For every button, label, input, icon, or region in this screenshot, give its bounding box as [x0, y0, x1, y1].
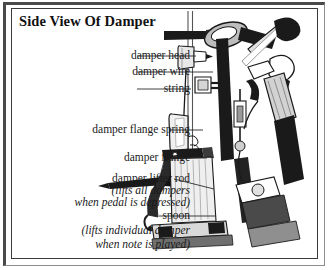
label-string: string: [57, 83, 190, 95]
label-damper-flange: damper flange: [25, 152, 190, 164]
label-spoon: spoon: [35, 210, 190, 222]
label-damper-head: damper head: [57, 50, 190, 62]
label-spoon-note-2: when note is played): [30, 239, 190, 251]
label-lifter-note-2: when pedal is depressed): [12, 197, 190, 209]
label-spoon-note-1: (lifts individual damper: [18, 225, 190, 237]
label-column: damper head damper wire string damper fl…: [0, 0, 190, 270]
label-damper-wire: damper wire: [57, 66, 190, 78]
label-damper-flange-spring: damper flange spring: [25, 124, 190, 136]
damper-diagram-page: Side View Of Damper damper head damper w…: [0, 0, 329, 270]
